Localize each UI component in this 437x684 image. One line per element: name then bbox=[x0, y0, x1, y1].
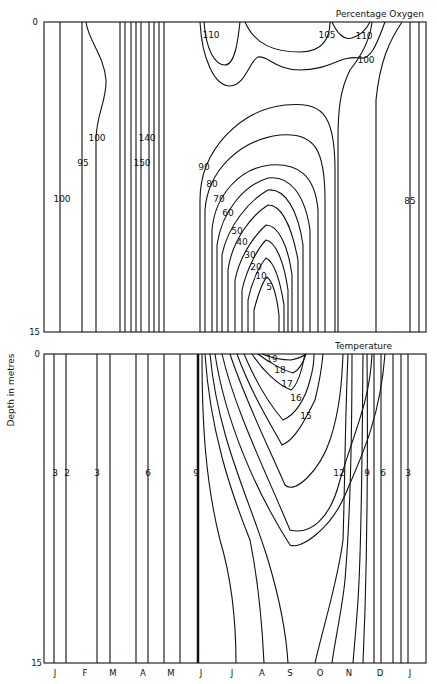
label-105: 105 bbox=[318, 30, 335, 40]
month-aug: A bbox=[259, 668, 265, 678]
label-100: 100 bbox=[357, 55, 374, 65]
label-85: 85 bbox=[404, 196, 415, 206]
month-feb: F bbox=[83, 668, 88, 678]
month-jul: J bbox=[230, 668, 234, 678]
label-9-b: 9 bbox=[364, 468, 370, 478]
temperature-y-tick-0: 0 bbox=[35, 349, 40, 359]
label-2: 2 bbox=[64, 468, 70, 478]
label-12: 12 bbox=[333, 468, 344, 478]
label-10: 10 bbox=[255, 271, 267, 281]
label-40: 40 bbox=[236, 237, 248, 247]
label-60: 60 bbox=[222, 208, 234, 218]
month-nov: N bbox=[346, 668, 352, 678]
month-mar: M bbox=[109, 668, 116, 678]
label-19: 19 bbox=[266, 354, 278, 364]
label-3: 3 bbox=[52, 468, 58, 478]
oxygen-panel: Percentage Oxygen 0 15 bbox=[29, 9, 426, 337]
month-jun: J bbox=[199, 668, 203, 678]
label-30: 30 bbox=[244, 250, 256, 260]
month-oct: O bbox=[317, 668, 324, 678]
temperature-plot-frame bbox=[44, 354, 426, 663]
label-6-b: 6 bbox=[380, 468, 386, 478]
label-140: 140 bbox=[138, 133, 155, 143]
label-6: 6 bbox=[145, 468, 151, 478]
x-axis-months: J F M A M J J A S O N D J bbox=[53, 668, 412, 678]
month-dec: D bbox=[377, 668, 384, 678]
label-18: 18 bbox=[274, 365, 286, 375]
label-3-c: 3 bbox=[405, 468, 411, 478]
month-may: M bbox=[167, 668, 174, 678]
label-90: 90 bbox=[198, 162, 210, 172]
label-50: 50 bbox=[231, 226, 243, 236]
label-95: 95 bbox=[77, 158, 88, 168]
y-axis-label: Depth in metres bbox=[6, 353, 16, 426]
month-jan-next: J bbox=[408, 668, 412, 678]
label-100-b: 100 bbox=[88, 133, 105, 143]
month-jan: J bbox=[53, 668, 57, 678]
label-15: 15 bbox=[300, 411, 311, 421]
oxygen-y-tick-15: 15 bbox=[29, 327, 40, 337]
label-5: 5 bbox=[266, 282, 272, 292]
temperature-panel-title: Temperature bbox=[334, 341, 392, 351]
oxygen-panel-title: Percentage Oxygen bbox=[336, 9, 424, 19]
label-110-b: 110 bbox=[355, 31, 372, 41]
label-9: 9 bbox=[193, 468, 199, 478]
label-150: 150 bbox=[133, 158, 150, 168]
contour-figure: Depth in metres Percentage Oxygen 0 15 bbox=[0, 0, 437, 684]
oxygen-y-tick-0: 0 bbox=[33, 17, 38, 27]
label-110: 110 bbox=[202, 30, 219, 40]
month-sep: S bbox=[287, 668, 292, 678]
label-3-b: 3 bbox=[94, 468, 100, 478]
label-100-c: 100 bbox=[53, 194, 70, 204]
temperature-panel: Temperature 0 15 3 bbox=[31, 341, 426, 668]
label-70: 70 bbox=[213, 194, 225, 204]
temperature-y-tick-15: 15 bbox=[31, 658, 42, 668]
label-17: 17 bbox=[281, 379, 292, 389]
label-16: 16 bbox=[290, 393, 302, 403]
label-80: 80 bbox=[206, 179, 218, 189]
month-apr: A bbox=[140, 668, 146, 678]
